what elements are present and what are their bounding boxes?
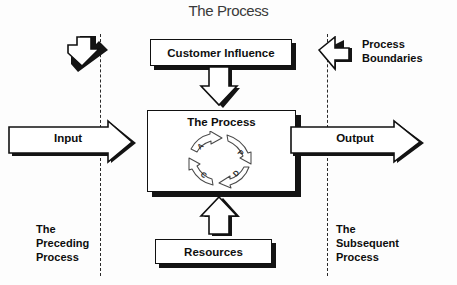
subsequent-process-annotation: The Subsequent Process <box>336 222 421 264</box>
boundary-pointer-left-arrow-icon <box>66 36 108 72</box>
pdca-cycle-icon: A P D C <box>175 131 267 189</box>
customer-influence-label: Customer Influence <box>167 47 274 59</box>
resources-up-arrow-icon <box>198 196 242 238</box>
diagram-canvas: The Process Process Boundaries Customer … <box>0 0 457 285</box>
customer-influence-down-arrow-icon <box>198 66 242 108</box>
process-boundary-line-right-lower <box>327 158 328 276</box>
customer-influence-box[interactable]: Customer Influence <box>150 39 292 66</box>
boundary-pointer-right-arrow-icon <box>318 36 362 72</box>
resources-label: Resources <box>184 246 243 258</box>
output-label: Output <box>296 132 414 144</box>
resources-box[interactable]: Resources <box>155 239 272 264</box>
preceding-process-annotation: The Preceding Process <box>36 222 98 264</box>
process-boundary-line-left-lower <box>100 158 101 276</box>
page-title: The Process <box>0 2 457 19</box>
process-boundaries-annotation: Process Boundaries <box>362 38 457 65</box>
main-process-box[interactable]: The Process A P D C <box>147 110 296 192</box>
input-label: Input <box>8 132 128 144</box>
main-process-label: The Process <box>148 116 295 128</box>
